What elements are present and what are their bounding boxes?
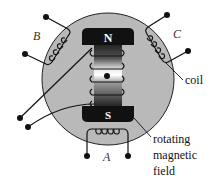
terminal-icon	[25, 124, 31, 130]
terminal-icon	[185, 48, 191, 54]
motor-diagram: N S B C	[0, 0, 217, 185]
north-label: N	[104, 31, 113, 45]
coil-c-label: C	[173, 27, 182, 41]
terminal-icon	[43, 14, 49, 20]
axle-icon	[104, 73, 110, 79]
field-annotation-line2: magnetic	[153, 148, 197, 162]
terminal-icon	[125, 153, 131, 159]
coil-a-label: A	[102, 150, 111, 164]
field-annotation-line1: rotating	[153, 132, 190, 146]
coil-b-label: B	[33, 29, 41, 43]
terminal-icon	[164, 12, 170, 18]
terminal-icon	[84, 153, 90, 159]
south-label: S	[105, 109, 111, 121]
terminal-icon	[22, 51, 28, 57]
coil-annotation: coil	[185, 73, 204, 87]
field-annotation-line3: field	[153, 164, 175, 178]
terminal-icon	[17, 115, 23, 121]
